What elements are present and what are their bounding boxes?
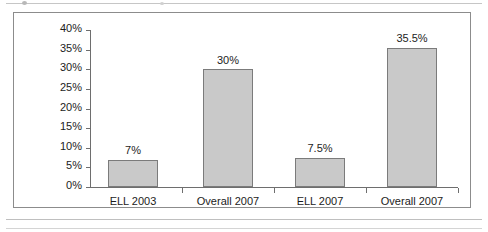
scan-rule-bottom-lower bbox=[6, 228, 482, 229]
bar-overall-2007-b[interactable] bbox=[387, 48, 437, 187]
category-label-ell-2003: ELL 2003 bbox=[98, 195, 168, 207]
scan-speck bbox=[160, 2, 164, 5]
y-tick-mark bbox=[86, 128, 90, 129]
x-tick-mark bbox=[366, 188, 367, 193]
scan-rule-bottom-upper bbox=[6, 219, 482, 220]
bar-ell-2007[interactable] bbox=[295, 158, 345, 187]
y-tick-mark bbox=[86, 89, 90, 90]
scan-rule-top bbox=[6, 3, 482, 4]
y-tick-label: 10% bbox=[60, 140, 82, 152]
plot-area: 40% 35% 30% 25% 20% 15% 10% 5% bbox=[14, 13, 470, 207]
y-tick-mark bbox=[86, 148, 90, 149]
y-tick-label: 0% bbox=[66, 179, 82, 191]
bar-ell-2003[interactable] bbox=[108, 160, 158, 188]
bar-value-label: 30% bbox=[203, 54, 253, 66]
y-tick-label: 35% bbox=[60, 42, 82, 54]
y-tick-mark bbox=[86, 109, 90, 110]
y-tick-mark bbox=[86, 69, 90, 70]
y-tick-label: 40% bbox=[60, 22, 82, 34]
y-tick-mark bbox=[86, 30, 90, 31]
bar-value-label: 7.5% bbox=[295, 142, 345, 154]
x-tick-mark bbox=[274, 188, 275, 193]
y-tick-label: 30% bbox=[60, 61, 82, 73]
bar-value-label: 7% bbox=[108, 144, 158, 156]
x-tick-mark bbox=[458, 188, 459, 193]
y-tick-mark bbox=[86, 50, 90, 51]
y-tick-mark bbox=[86, 187, 90, 188]
x-tick-mark bbox=[182, 188, 183, 193]
category-label-overall-2007-a: Overall 2007 bbox=[182, 195, 274, 207]
y-axis-line bbox=[90, 30, 91, 187]
y-tick-label: 15% bbox=[60, 120, 82, 132]
category-label-overall-2007-b: Overall 2007 bbox=[366, 195, 458, 207]
scan-speck bbox=[22, 1, 27, 5]
chart-frame: 40% 35% 30% 25% 20% 15% 10% 5% bbox=[13, 12, 471, 208]
category-label-ell-2007: ELL 2007 bbox=[285, 195, 355, 207]
bar-overall-2007-a[interactable] bbox=[203, 69, 253, 187]
bar-value-label: 35.5% bbox=[383, 32, 441, 44]
y-tick-mark bbox=[86, 167, 90, 168]
y-tick-label: 5% bbox=[66, 159, 82, 171]
y-tick-label: 20% bbox=[60, 101, 82, 113]
y-tick-label: 25% bbox=[60, 81, 82, 93]
